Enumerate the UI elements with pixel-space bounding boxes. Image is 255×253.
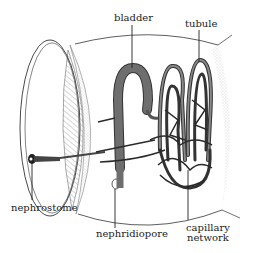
septum xyxy=(20,40,91,216)
label-network: network xyxy=(187,233,229,243)
label-tubule: tubule xyxy=(185,19,217,29)
tubule-structure xyxy=(160,60,211,188)
label-nephridiopore: nephridiopore xyxy=(96,229,168,239)
bladder-structure xyxy=(112,68,158,189)
label-nephrostome: nephrostome xyxy=(11,203,78,213)
label-bladder: bladder xyxy=(114,13,153,23)
nephridium-diagram xyxy=(0,0,255,253)
body-segment xyxy=(75,35,240,225)
